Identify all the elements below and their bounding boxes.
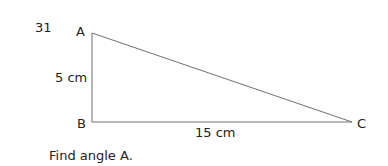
side-label-bc: 15 cm (195, 126, 236, 139)
vertex-label-b: B (77, 117, 86, 130)
vertex-label-a: A (76, 25, 85, 38)
side-label-ab: 5 cm (55, 71, 87, 84)
triangle-abc (92, 33, 352, 122)
vertex-label-c: C (357, 117, 366, 130)
question-prompt: Find angle A. (49, 149, 133, 162)
question-number: 31 (35, 21, 52, 34)
